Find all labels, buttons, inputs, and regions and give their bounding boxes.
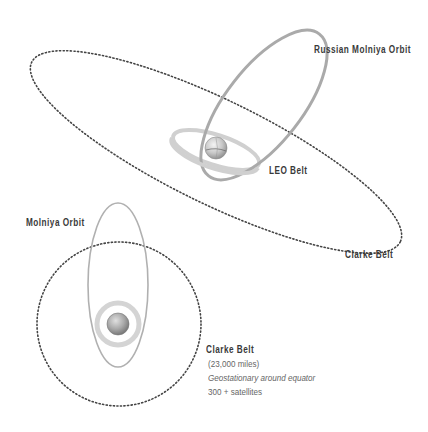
russian-molniya-orbit-label: Russian Molniya Orbit — [314, 44, 411, 55]
earth-top — [205, 137, 227, 159]
earth-bottom — [107, 313, 129, 335]
molniya-orbit-label: Molniya Orbit — [26, 217, 85, 228]
russian-molniya-orbit — [179, 11, 350, 200]
clarke-belt-satellite-count: 300 + satellites — [208, 385, 315, 399]
clarke-belt-description: Geostationary around equator — [208, 371, 315, 385]
orbits-diagram: Russian Molniya Orbit LEO Belt Clarke Be… — [0, 0, 428, 432]
clarke-belt-label-bottom: Clarke Belt — [206, 344, 254, 355]
leo-belt-label: LEO Belt — [269, 165, 308, 176]
clarke-belt-notes: (23,000 miles) Geostationary around equa… — [208, 357, 315, 399]
molniya-orbit — [88, 203, 148, 367]
clarke-belt-label-top: Clarke Belt — [345, 249, 393, 260]
clarke-belt-distance: (23,000 miles) — [208, 357, 315, 371]
